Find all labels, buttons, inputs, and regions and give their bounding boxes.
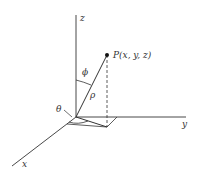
z-axis-label: z [79,13,85,23]
theta-pointer [64,110,72,117]
point-p [105,53,109,57]
theta-arc [69,121,88,123]
y-axis-label: y [181,119,188,129]
rho-label: ρ [89,90,96,100]
point-label: P(x, y, z) [112,50,152,60]
rho-segment [76,55,107,117]
diagram-svg: z y x P(x, y, z) ϕ ρ θ [0,0,199,189]
spherical-coordinates-diagram: z y x P(x, y, z) ϕ ρ θ [0,0,199,189]
phi-label: ϕ [82,67,88,77]
theta-label: θ [56,104,62,114]
x-axis-label: x [22,159,27,169]
phi-arc [76,80,91,85]
